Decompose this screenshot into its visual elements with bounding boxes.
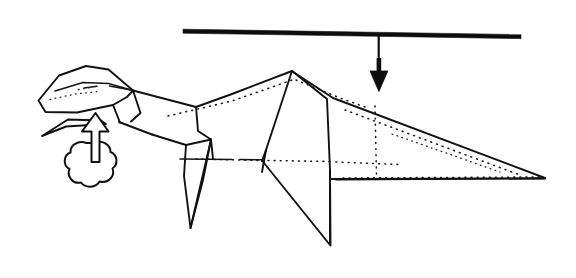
origami-diagram: Origami folding step diagram inflatable … (0, 0, 576, 278)
back-leg-rear-edge (330, 170, 331, 246)
origami-illustration (0, 0, 576, 278)
tail-bottom-solid (330, 178, 544, 179)
diagram-background (0, 0, 576, 278)
